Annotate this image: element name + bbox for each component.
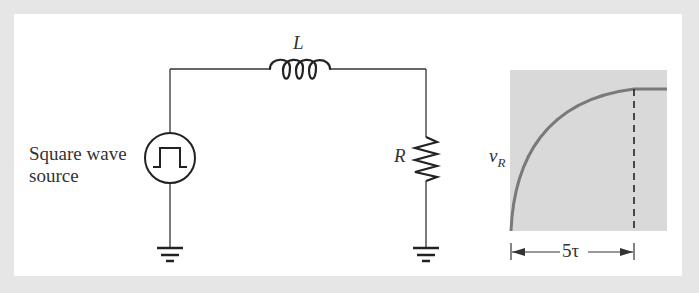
arrow-right-icon bbox=[620, 248, 633, 256]
inductor-label: L bbox=[293, 32, 304, 54]
inductor-icon bbox=[270, 60, 330, 79]
resistor-label: R bbox=[394, 145, 406, 167]
vr-label-subscript: R bbox=[497, 155, 505, 170]
response-graph bbox=[510, 70, 667, 260]
source-label-line2: source bbox=[29, 165, 79, 187]
arrow-left-icon bbox=[512, 248, 525, 256]
source-label-line1: Square wave bbox=[29, 143, 127, 165]
graph-background bbox=[510, 70, 667, 231]
ground-icon-left bbox=[157, 248, 183, 261]
resistor-icon bbox=[415, 137, 437, 181]
five-tau-label: 5τ bbox=[562, 240, 579, 262]
ground-icon-right bbox=[413, 248, 439, 261]
square-wave-source-icon bbox=[145, 133, 195, 183]
vr-label: vR bbox=[489, 145, 505, 174]
